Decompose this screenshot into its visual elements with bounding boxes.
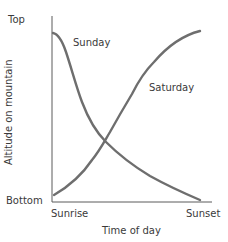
y-tick-top: Top xyxy=(8,14,25,26)
sunday-curve xyxy=(53,33,200,200)
chart: Top Bottom Sunrise Sunset Time of day Al… xyxy=(0,0,228,242)
y-axis-title: Altitude on mountain xyxy=(3,59,15,165)
x-tick-start: Sunrise xyxy=(51,208,88,220)
y-tick-bottom: Bottom xyxy=(6,195,43,207)
saturday-label: Saturday xyxy=(149,82,194,94)
x-axis-title: Time of day xyxy=(102,225,161,237)
x-tick-end: Sunset xyxy=(186,208,220,220)
sunday-label: Sunday xyxy=(73,37,110,49)
saturday-curve xyxy=(54,31,200,195)
